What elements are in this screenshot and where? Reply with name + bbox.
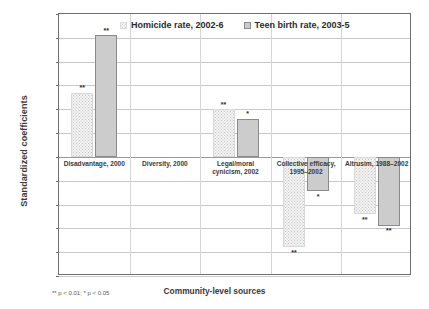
y-tick-mark [56,133,59,134]
bar [71,93,93,157]
chart-legend: Homicide rate, 2002-6 Teen birth rate, 2… [120,20,349,30]
y-tick-mark [56,14,59,15]
plot-area: 0.600.500.400.300.200.100.00-0.10-0.20-0… [58,13,411,275]
category-separator [271,14,272,274]
gridline [59,228,410,229]
bar [237,119,259,157]
y-tick-mark [56,109,59,110]
y-tick-mark [56,85,59,86]
y-axis-title: Standardized coefficients [19,66,29,236]
significance-marker: ** [209,101,239,108]
significance-marker: ** [279,249,309,256]
y-tick-mark [56,157,59,158]
legend-item-homicide-rate: Homicide rate, 2002-6 [120,20,224,30]
significance-marker: * [303,193,333,200]
category-separator [341,14,342,274]
significance-marker: ** [350,216,380,223]
y-tick-mark [56,228,59,229]
y-tick-mark [56,205,59,206]
y-tick-mark [56,276,59,277]
significance-footnote: ** p < 0.01; * p < 0.05 [52,290,109,296]
significance-marker: ** [91,27,121,34]
significance-marker: ** [67,84,97,91]
y-tick-mark [56,38,59,39]
legend-swatch-icon-homicide [120,22,127,29]
legend-label-homicide: Homicide rate, 2002-6 [131,20,224,30]
legend-label-teen-birth: Teen birth rate, 2003-5 [255,20,350,30]
y-tick-mark [56,62,59,63]
significance-marker: * [233,110,263,117]
bar [95,35,117,156]
y-tick-mark [56,252,59,253]
significance-marker: ** [374,227,404,234]
bar-chart: Standardized coefficients 0.600.500.400.… [0,0,429,309]
y-tick-mark [56,181,59,182]
legend-swatch-icon-teen-birth [244,22,251,29]
legend-item-teen-birth-rate: Teen birth rate, 2003-5 [244,20,350,30]
category-label: Altrusim, 1988–2002 [335,160,418,168]
gridline [59,276,410,277]
gridline [59,252,410,253]
bar [213,109,235,157]
category-separator [200,14,201,274]
category-separator [130,14,131,274]
